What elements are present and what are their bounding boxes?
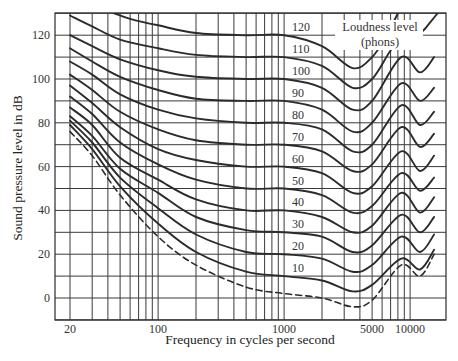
curve-label-80: 80 (292, 108, 304, 122)
y-tick-label: 120 (32, 28, 50, 42)
equal-loudness-chart: 120110100908070605040302010 020406080100… (0, 0, 458, 361)
y-tick-label: 20 (38, 247, 50, 261)
y-tick-label: 40 (38, 203, 50, 217)
loudness-curve-40-phons (70, 108, 434, 233)
threshold-curve (70, 132, 434, 307)
curve-label-120: 120 (292, 20, 310, 34)
x-tick-label: 20 (64, 322, 76, 336)
y-tick-label: 60 (38, 160, 50, 174)
y-tick-label: 0 (44, 291, 50, 305)
loudness-curve-80-phons (70, 62, 434, 153)
curve-label-100: 100 (292, 64, 310, 78)
x-tick-label: 10000 (395, 322, 425, 336)
curve-label-90: 90 (292, 86, 304, 100)
loudness-curve-10-phons (70, 125, 434, 292)
legend-title-line2: (phons) (361, 35, 399, 49)
curve-label-60: 60 (292, 152, 304, 166)
curve-label-20: 20 (292, 239, 304, 253)
curve-label-70: 70 (292, 130, 304, 144)
y-tick-label: 80 (38, 116, 50, 130)
x-tick-label: 5000 (360, 322, 384, 336)
legend-title-line1: Loudness level (342, 20, 418, 34)
curve-label-10: 10 (292, 261, 304, 275)
y-tick-label: 100 (32, 72, 50, 86)
curve-label-30: 30 (292, 217, 304, 231)
x-axis-label: Frequency in cycles per second (165, 332, 335, 347)
curve-label-40: 40 (292, 195, 304, 209)
y-axis-ticks: 020406080100120 (32, 28, 50, 305)
y-axis-label: Sound pressure level in dB (10, 95, 25, 240)
legend-title: Loudness level (phons) (335, 20, 423, 50)
curve-label-110: 110 (292, 42, 310, 56)
curve-label-50: 50 (292, 174, 304, 188)
